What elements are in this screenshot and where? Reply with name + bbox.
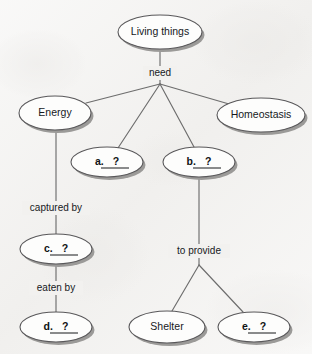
node-blank-c-shape (20, 234, 92, 264)
edge-label-captured-by-text: captured by (30, 202, 82, 213)
node-energy[interactable]: Energy (19, 96, 94, 133)
node-blank-a[interactable]: a.? (71, 147, 146, 180)
edge-label-to-provide-text: to provide (177, 245, 221, 256)
concept-map-canvas: need captured by eaten by to provide Liv… (0, 0, 312, 354)
node-shelter-label: Shelter (150, 320, 184, 332)
node-blank-c[interactable]: c.? (20, 234, 95, 267)
node-blank-d[interactable]: d.? (20, 312, 95, 345)
edge-label-need-text: need (149, 67, 171, 78)
node-shelter[interactable]: Shelter (129, 311, 208, 346)
edges-layer (56, 49, 243, 312)
node-blank-b-shape (163, 147, 235, 177)
edge-junction-to-homeostasis (160, 84, 229, 104)
node-energy-label: Energy (38, 106, 72, 118)
edge-label-eaten-by-text: eaten by (37, 282, 75, 293)
edge-junction-to-blank-e (199, 265, 243, 312)
node-homeostasis[interactable]: Homeostasis (217, 98, 308, 135)
node-blank-d-shape (20, 312, 92, 342)
node-blank-a-shape (71, 147, 143, 177)
edge-label-to-provide: to provide (168, 244, 230, 258)
node-homeostasis-label: Homeostasis (231, 108, 292, 120)
node-blank-e[interactable]: e.? (218, 312, 293, 345)
edge-label-need: need (143, 66, 177, 80)
edge-label-captured-by: captured by (22, 201, 90, 215)
node-living-things[interactable]: Living things (118, 15, 205, 52)
concept-map-diagram: need captured by eaten by to provide Liv… (0, 0, 312, 354)
node-blank-e-shape (218, 312, 290, 342)
edge-junction-to-blank-b (160, 84, 194, 147)
nodes-layer: Living things Energy Homeostasis a.? (19, 15, 308, 346)
edge-label-eaten-by: eaten by (29, 281, 83, 295)
node-blank-b[interactable]: b.? (163, 147, 238, 180)
node-living-things-label: Living things (131, 25, 189, 37)
edge-junction-to-shelter (172, 265, 199, 311)
